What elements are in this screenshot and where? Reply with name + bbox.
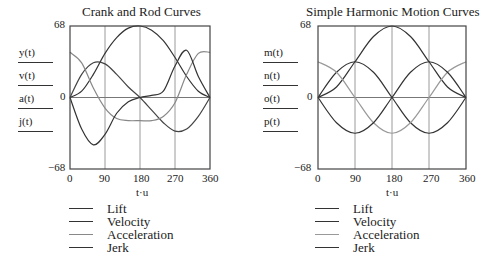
fn-label-v: v(t) bbox=[18, 68, 53, 86]
fn-label-n: n(t) bbox=[263, 68, 298, 86]
chart-title: Crank and Rod Curves bbox=[82, 4, 201, 20]
legend-swatch bbox=[69, 247, 93, 248]
y-tick-top: 68 bbox=[300, 18, 311, 30]
x-tick-0: 0 bbox=[315, 172, 321, 184]
legend: Lift Velocity Acceleration Jerk bbox=[69, 202, 173, 254]
x-tick-270: 270 bbox=[167, 172, 184, 184]
fn-label-m: m(t) bbox=[263, 45, 298, 63]
chart-title: Simple Harmonic Motion Curves bbox=[306, 4, 480, 20]
x-tick-180: 180 bbox=[133, 172, 150, 184]
legend-swatch bbox=[315, 247, 339, 248]
y-tick-zero: 0 bbox=[60, 90, 66, 102]
shm-chart: Simple Harmonic Motion Curves m(t) n(t) … bbox=[237, 0, 474, 269]
x-tick-90: 90 bbox=[350, 172, 361, 184]
y-tick-zero: 0 bbox=[307, 90, 313, 102]
crank-rod-chart: Crank and Rod Curves y(t) v(t) a(t) j(t)… bbox=[0, 0, 237, 269]
legend: Lift Velocity Acceleration Jerk bbox=[315, 202, 419, 254]
legend-swatch bbox=[315, 221, 339, 222]
x-tick-0: 0 bbox=[67, 172, 73, 184]
legend-swatch bbox=[315, 234, 339, 235]
legend-item-jerk: Jerk bbox=[69, 241, 173, 254]
legend-swatch bbox=[69, 221, 93, 222]
x-tick-180: 180 bbox=[386, 172, 403, 184]
function-labels: m(t) n(t) o(t) p(t) bbox=[263, 45, 298, 137]
x-axis-label: t·u bbox=[136, 186, 148, 198]
legend-item-jerk: Jerk bbox=[315, 241, 419, 254]
legend-swatch bbox=[69, 208, 93, 209]
fn-label-o: o(t) bbox=[263, 91, 298, 109]
plot-area bbox=[317, 25, 467, 170]
y-tick-top: 68 bbox=[54, 18, 65, 30]
function-labels: y(t) v(t) a(t) j(t) bbox=[18, 45, 53, 137]
fn-label-j: j(t) bbox=[18, 114, 53, 132]
fn-label-p: p(t) bbox=[263, 114, 298, 132]
x-tick-270: 270 bbox=[423, 172, 440, 184]
y-tick-bottom: −68 bbox=[294, 161, 311, 173]
legend-swatch bbox=[69, 234, 93, 235]
fn-label-a: a(t) bbox=[18, 91, 53, 109]
x-tick-90: 90 bbox=[99, 172, 110, 184]
plot-area bbox=[69, 25, 211, 170]
legend-swatch bbox=[315, 208, 339, 209]
x-tick-360: 360 bbox=[202, 172, 219, 184]
y-tick-bottom: −68 bbox=[48, 161, 65, 173]
x-axis-label: t·u bbox=[386, 186, 398, 198]
x-tick-360: 360 bbox=[459, 172, 476, 184]
fn-label-y: y(t) bbox=[18, 45, 53, 63]
